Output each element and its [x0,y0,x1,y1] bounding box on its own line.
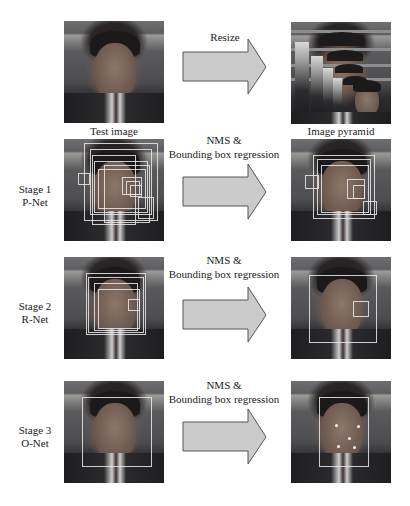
bbox [353,185,365,199]
stage-3-arrow-icon [182,408,268,466]
operation-line-1: NMS & [159,253,289,267]
photo-face [94,43,136,99]
operation-line-2: Bounding box regression [159,392,289,406]
stage-1-operation: NMS & Bounding box regression [159,133,289,161]
operation-line-1: NMS & [159,378,289,392]
photo-suit [64,93,164,123]
landmark-dot-icon [357,425,360,428]
image-pyramid-caption: Image pyramid [291,125,391,137]
operation-line-1: NMS & [159,133,289,147]
stage-3-input-image [64,381,164,483]
stage-2-operation: NMS & Bounding box regression [159,253,289,281]
stage-3-output-image [291,381,391,483]
stage-2-network: R-Net [5,313,65,326]
stage-2-input-image [64,257,164,359]
stage-1-arrow-icon [182,163,268,221]
operation-line-2: Bounding box regression [159,147,289,161]
bbox [305,175,319,189]
stage-2-title: Stage 2 [5,300,65,313]
bbox [319,397,369,467]
bbox [128,299,140,311]
stage-1-network: P-Net [5,196,65,209]
bbox [82,397,152,467]
stage-3-title: Stage 3 [5,424,65,437]
stage-2-output-image [291,257,391,359]
stage-2-arrow-icon [182,286,268,344]
stage-1-title: Stage 1 [5,183,65,196]
stage-2-label: Stage 2 R-Net [5,300,65,326]
stage-3-network: O-Net [5,437,65,450]
test-image-caption: Test image [64,125,164,137]
stage-1-output-image [291,139,391,241]
stage-1-input-image [64,139,164,241]
stage-3-operation: NMS & Bounding box regression [159,378,289,406]
bbox [138,197,154,219]
bbox [78,173,90,185]
test-image [64,21,164,123]
bbox [130,185,142,197]
landmark-dot-icon [337,445,340,448]
operation-line-2: Bounding box regression [159,267,289,281]
landmark-dot-icon [348,437,351,440]
stage-1-label: Stage 1 P-Net [5,183,65,209]
bbox [363,201,377,215]
landmark-dot-icon [335,424,338,427]
image-pyramid [291,22,391,124]
resize-arrow-icon [182,38,268,96]
bbox [353,301,369,317]
stage-3-label: Stage 3 O-Net [5,424,65,450]
landmark-dot-icon [353,446,356,449]
